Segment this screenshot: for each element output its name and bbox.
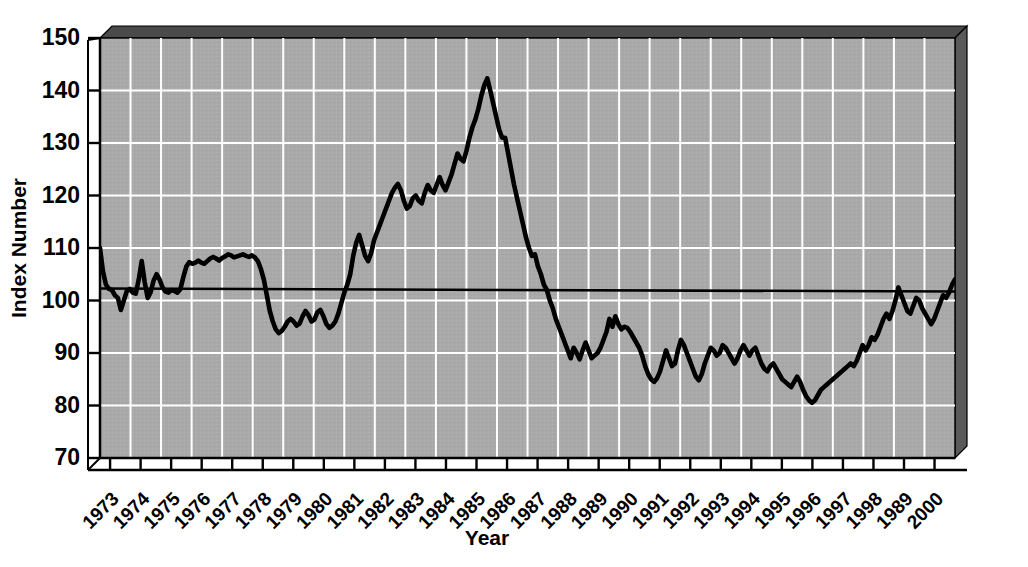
- x-axis-ticks: [110, 458, 934, 470]
- chart-container: 708090100110120130140150 197319741975197…: [0, 0, 1028, 567]
- y-tick-label: 90: [54, 339, 80, 365]
- y-axis-corner-connector: [88, 458, 100, 470]
- plot-3d-right-face: [955, 26, 967, 458]
- x-axis-title: Year: [465, 526, 509, 549]
- y-axis-ticks: 708090100110120130140150: [42, 24, 100, 470]
- y-tick-label: 80: [54, 392, 80, 418]
- index-number-line-chart: 708090100110120130140150 197319741975197…: [0, 0, 1028, 567]
- y-tick-label: 130: [42, 129, 80, 155]
- x-axis-tick-labels: 1973197419751976197719781979198019811982…: [78, 488, 947, 533]
- y-tick-label: 150: [42, 24, 80, 50]
- x-tick-label: 2000: [903, 488, 948, 533]
- y-tick-label: 70: [54, 444, 80, 470]
- y-tick-label: 100: [42, 287, 80, 313]
- y-tick-label: 120: [42, 182, 80, 208]
- y-axis-title: Index Number: [7, 178, 30, 318]
- y-tick-label: 110: [43, 234, 80, 260]
- y-tick-label: 140: [42, 77, 80, 103]
- plot-3d-top-face: [100, 26, 967, 38]
